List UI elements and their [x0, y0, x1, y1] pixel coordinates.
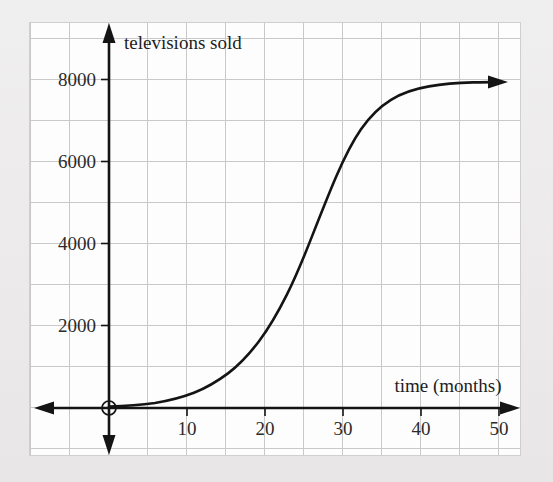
x-tick-label: 20: [256, 418, 275, 439]
x-axis: [34, 402, 520, 415]
y-tick-label: 6000: [58, 151, 96, 172]
y-tick-label: 2000: [58, 315, 96, 336]
y-tick-label: 4000: [58, 233, 96, 254]
x-axis-arrow-left: [34, 402, 54, 415]
sales-curve: [109, 82, 492, 406]
x-tick-label: 40: [412, 418, 431, 439]
x-tick-label: 30: [334, 418, 353, 439]
x-axis-arrow-right: [500, 402, 520, 415]
x-tick-labels: 10 20 30 40 50: [178, 418, 509, 439]
y-axis-title: televisions sold: [124, 32, 242, 53]
y-axis-arrow-up: [103, 23, 116, 43]
x-axis-title: time (months): [394, 375, 501, 397]
y-tick-label: 8000: [58, 69, 96, 90]
x-tick-label: 50: [490, 418, 509, 439]
y-axis-arrow-down: [103, 435, 116, 455]
page-background: 8000 6000 4000 2000 10 20 30 40 50 telev…: [0, 0, 553, 482]
chart-canvas: 8000 6000 4000 2000 10 20 30 40 50 telev…: [30, 23, 520, 455]
x-tick-label: 10: [178, 418, 197, 439]
chart-panel: 8000 6000 4000 2000 10 20 30 40 50 telev…: [29, 22, 521, 456]
y-axis: [103, 23, 116, 455]
